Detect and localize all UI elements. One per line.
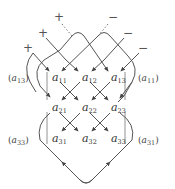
- row2-row3-arrows: [60, 113, 110, 131]
- entry-a11: a11: [52, 71, 67, 85]
- entry-a13: a13: [111, 71, 126, 85]
- dotted-line-plus: [62, 24, 72, 36]
- entry-a31: a31: [52, 132, 67, 146]
- plus-sign-1: +: [54, 10, 64, 24]
- minus-sign-1: −: [108, 10, 118, 24]
- sarrus-diagram: + + + − − −: [0, 0, 175, 189]
- entry-a12: a12: [82, 71, 97, 85]
- entry-a33: a33: [111, 132, 126, 146]
- entry-a23: a23: [111, 101, 126, 115]
- entry-a22: a22: [82, 101, 97, 115]
- plus-sign-3: +: [23, 41, 33, 55]
- side-label-row3-right: (a31): [138, 135, 159, 147]
- bottom-loops: [39, 113, 133, 183]
- side-label-row1-left: (a13): [8, 73, 29, 85]
- plus-signs: + + +: [23, 10, 64, 55]
- entry-a21: a21: [52, 101, 67, 115]
- minus-sign-3: −: [138, 41, 148, 55]
- minus-sign-2: −: [123, 26, 133, 40]
- entry-a32: a32: [82, 132, 97, 146]
- side-label-row3-left: (a33): [8, 135, 29, 147]
- side-label-row1-right: (a11): [138, 73, 159, 85]
